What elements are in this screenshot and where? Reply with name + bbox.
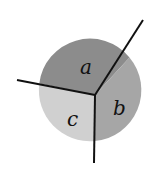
diagram-canvas: a b c	[0, 0, 159, 183]
ray-down	[94, 95, 95, 163]
label-b: b	[113, 96, 126, 120]
label-a: a	[80, 55, 92, 79]
label-c: c	[67, 107, 78, 131]
